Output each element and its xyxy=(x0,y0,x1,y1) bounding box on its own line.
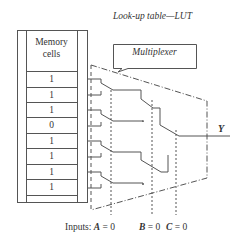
memory-cell: 1 xyxy=(26,72,77,87)
memory-header: Memory cells xyxy=(26,36,77,60)
memory-cell: 1 xyxy=(26,134,77,149)
inputs-a: Inputs: A = 0 xyxy=(65,222,115,232)
memory-cell: 1 xyxy=(26,165,77,180)
inputs-b: B = 0 xyxy=(139,222,160,232)
memory-cell: 1 xyxy=(26,149,77,164)
memory-cell: 1 xyxy=(26,103,77,118)
inputs-c: C = 0 xyxy=(166,222,187,232)
output-label: Y xyxy=(218,123,224,134)
multiplexer-label: Multiplexer xyxy=(113,47,196,57)
memory-cell: 0 xyxy=(26,118,77,133)
memory-cell: 1 xyxy=(26,180,77,195)
memory-cell: 1 xyxy=(26,88,77,103)
